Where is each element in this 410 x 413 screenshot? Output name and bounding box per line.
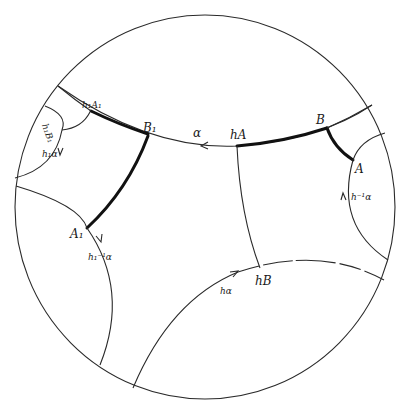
label-A1: A₁ bbox=[69, 227, 83, 241]
label-hA: hA bbox=[230, 128, 247, 142]
segment-B-A bbox=[327, 128, 353, 160]
geodesic-hA-hB bbox=[237, 146, 260, 268]
segment-h1A1-B1 bbox=[91, 111, 148, 134]
label-B: B bbox=[315, 113, 325, 127]
label-h-alpha: hα bbox=[220, 286, 232, 296]
h-inv-alpha-arrow-icon bbox=[341, 193, 346, 200]
label-alpha: α bbox=[193, 126, 201, 140]
segment-B1-A1 bbox=[87, 136, 148, 228]
geodesic-h1-inv-alpha bbox=[16, 186, 112, 365]
boundary-circle bbox=[15, 15, 395, 399]
segment-hA-B bbox=[237, 128, 327, 146]
label-h1A1: h₁A₁ bbox=[82, 100, 102, 110]
h1-alpha-arrow-icon bbox=[58, 148, 63, 155]
label-B1: B₁ bbox=[142, 121, 157, 135]
label-h-inv-alpha: h⁻¹α bbox=[351, 192, 371, 202]
label-h1B1: h₁B₁ bbox=[40, 122, 56, 144]
label-A: A bbox=[354, 162, 364, 176]
label-hB: hB bbox=[255, 274, 272, 288]
label-h1-alpha: h₁α bbox=[42, 149, 57, 159]
geodesic-h1-alpha bbox=[15, 106, 63, 178]
geodesic-top-right bbox=[327, 105, 372, 128]
h1-inv-alpha-arrow-icon bbox=[96, 234, 102, 242]
connector-h1A1-h1B1 bbox=[62, 112, 90, 130]
hyperbolic-disk-figure: α hA B A h⁻¹α h₁A₁ B₁ h₁B₁ h₁α A₁ h₁⁻¹α … bbox=[0, 0, 410, 413]
label-h1-inv-alpha: h₁⁻¹α bbox=[88, 252, 112, 262]
